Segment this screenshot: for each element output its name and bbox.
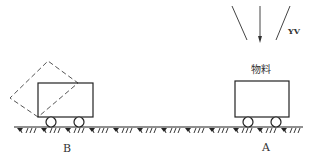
cart-a [235, 81, 289, 127]
cart-a-wheel-right [271, 117, 281, 127]
cart-b-body [38, 83, 93, 117]
cart-a-body [235, 81, 289, 117]
ground-track [14, 127, 303, 133]
point-b-label: B [63, 143, 71, 154]
light-rays-icon [232, 6, 290, 43]
cart-b-wheel-right [74, 117, 84, 127]
point-a-label: A [262, 142, 270, 153]
material-label: 物料 [251, 65, 271, 75]
sensor-label: YV [288, 27, 300, 35]
cart-b [10, 61, 93, 127]
cart-a-wheel-left [243, 117, 253, 127]
cart-b-wheel-left [46, 117, 56, 127]
diagram-canvas [0, 0, 310, 160]
cart-b-tilted-outline [10, 61, 78, 117]
